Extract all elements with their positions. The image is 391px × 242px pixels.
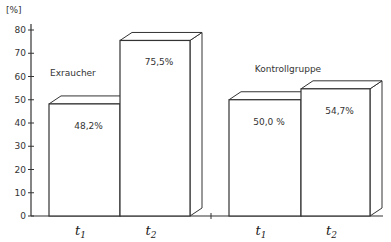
bar-top-g2-t1 xyxy=(229,92,313,100)
bar-side-g2-t2 xyxy=(370,81,382,216)
bar-top-g2-t2 xyxy=(301,81,382,89)
group-label-1: Exraucher xyxy=(50,68,96,78)
y-tick-label-0: 0 xyxy=(20,211,26,221)
y-tick-label-40: 40 xyxy=(15,118,27,128)
y-tick-label-10: 10 xyxy=(15,188,27,198)
value-label-g2-t1: 50,0 % xyxy=(253,117,285,127)
x-tick-label-g2-t1: t1 xyxy=(256,223,267,240)
group-label-2: Kontrollgruppe xyxy=(255,64,322,74)
bar-top-g1-t2 xyxy=(120,32,202,40)
y-axis-unit-label: [%] xyxy=(6,5,22,15)
y-tick-label-60: 60 xyxy=(15,72,27,82)
y-tick-label-30: 30 xyxy=(15,141,27,151)
bar-side-g1-t2 xyxy=(190,32,202,216)
y-tick-label-20: 20 xyxy=(15,165,27,175)
y-tick-label-80: 80 xyxy=(15,25,27,35)
x-tick-label-g2-t2: t2 xyxy=(326,223,337,240)
y-tick-label-70: 70 xyxy=(15,48,27,58)
y-tick-label-50: 50 xyxy=(15,95,27,105)
value-label-g2-t2: 54,7% xyxy=(325,106,354,116)
value-label-g1-t2: 75,5% xyxy=(145,57,174,67)
value-label-g1-t1: 48,2% xyxy=(74,121,103,131)
x-tick-label-g1-t1: t1 xyxy=(75,223,86,240)
bar-chart: [%]01020304050607080Exraucher48,2%t175,5… xyxy=(0,0,391,242)
x-tick-label-g1-t2: t2 xyxy=(146,223,157,240)
